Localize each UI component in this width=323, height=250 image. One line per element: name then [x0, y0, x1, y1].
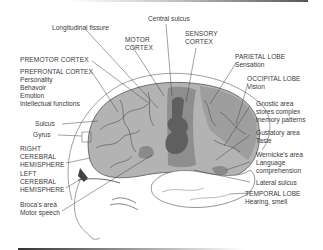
label-sulcus: Sulcus — [35, 120, 55, 128]
label-lateral-sulcus: Lateral sulcus — [256, 179, 297, 187]
label-gnostic-area: Gnostic area stores complex memory patte… — [256, 100, 305, 124]
label-left-hemisphere: LEFT CEREBRAL HEMISPHERE — [20, 170, 65, 194]
label-brocas-area: Broca's area Motor speech — [20, 201, 60, 217]
label-right-hemisphere: RIGHT CEREBRAL HEMISPHERE — [20, 145, 65, 169]
label-gyrus: Gyrus — [33, 131, 51, 139]
label-premotor-cortex: PREMOTOR CORTEX — [20, 56, 89, 64]
label-longitudinal-fissure: Longitudinal fissure — [52, 24, 109, 32]
label-temporal-lobe: TEMPORAL LOBE Hearing, smell — [245, 190, 300, 206]
label-wernickes-area: Wernicke's area Language comprehension — [256, 151, 303, 175]
label-motor-cortex: MOTOR CORTEX — [125, 36, 153, 52]
face-profile — [74, 180, 100, 239]
label-prefrontal-cortex: PREFRONTAL CORTEX Personality Behavoir E… — [20, 68, 93, 108]
label-parietal-lobe: PARIETAL LOBE Sensation — [235, 53, 285, 69]
label-gustatory-area: Gustatory area Taste — [256, 129, 300, 145]
eye-sketch — [110, 198, 138, 210]
temporal-lobe — [151, 170, 255, 208]
label-sensory-cortex: SENSORY CORTEX — [185, 30, 218, 46]
label-occipital-lobe: OCCIPITAL LOBE Vision — [247, 75, 301, 91]
label-central-sulcus: Central sulcus — [148, 15, 190, 23]
